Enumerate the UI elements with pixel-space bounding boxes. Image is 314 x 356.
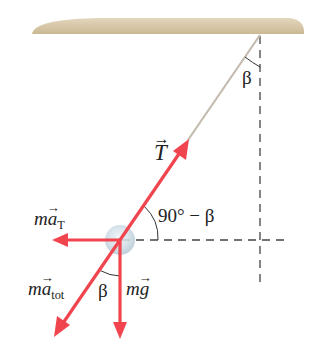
ma-t-accel: a bbox=[48, 208, 58, 230]
complement-angle-label: 90° − β bbox=[158, 205, 214, 227]
total-force-arrow bbox=[61, 240, 120, 326]
tangential-force-label: maT bbox=[34, 208, 65, 233]
total-force-label: matot bbox=[28, 278, 64, 303]
ma-t-subscript: T bbox=[57, 218, 65, 232]
gravity-label: mg bbox=[126, 278, 149, 300]
mg-g: g bbox=[140, 278, 150, 300]
gravity-arrowhead bbox=[113, 322, 127, 339]
beta-label-top: β bbox=[242, 67, 252, 89]
beta-arc-bottom bbox=[99, 270, 120, 276]
beta-label-bottom: β bbox=[98, 280, 108, 302]
tension-label: T bbox=[154, 140, 167, 166]
tension-symbol: T bbox=[154, 140, 167, 166]
complement-angle-arc bbox=[144, 206, 158, 240]
beta-arc-top bbox=[245, 57, 260, 67]
ceiling bbox=[32, 18, 304, 34]
ma-tot-subscript: tot bbox=[51, 288, 64, 302]
ma-tot-accel: a bbox=[42, 278, 52, 300]
tangential-force-arrowhead bbox=[52, 233, 68, 247]
